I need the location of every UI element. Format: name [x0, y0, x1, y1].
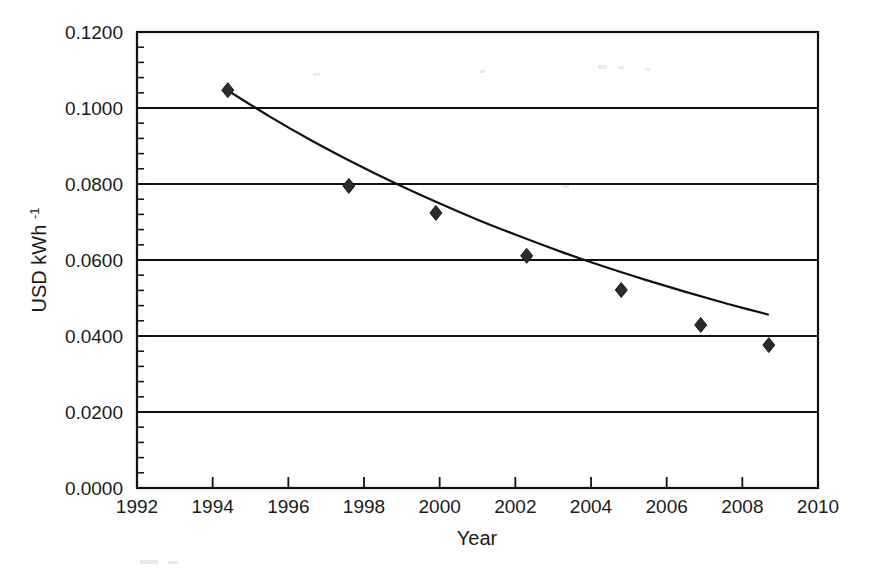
x-tick-label: 2002 [494, 496, 536, 517]
x-axis-title-label: Year [457, 527, 498, 549]
y-tick-label: 0.0000 [65, 478, 123, 499]
y-tick-label: 0.1200 [65, 22, 123, 43]
y-axis-title-label: USD kWh -1 [27, 208, 50, 313]
y-axis-title: USD kWh -1 [27, 208, 50, 313]
x-tick-label: 2004 [570, 496, 613, 517]
x-tick-label: 2006 [646, 496, 688, 517]
x-tick-label: 1998 [343, 496, 385, 517]
y-tick-label: 0.0400 [65, 326, 123, 347]
y-tick-label: 0.0800 [65, 174, 123, 195]
x-tick-label: 2010 [797, 496, 839, 517]
x-tick-label: 1992 [116, 496, 158, 517]
y-tick-label: 0.1000 [65, 98, 123, 119]
x-tick-label: 2000 [419, 496, 461, 517]
figure-container: 0.00000.02000.04000.06000.08000.10000.12… [0, 0, 874, 573]
x-tick-label: 1996 [267, 496, 309, 517]
x-axis-title: Year [457, 527, 498, 549]
y-tick-label: 0.0200 [65, 402, 123, 423]
line-chart: 0.00000.02000.04000.06000.08000.10000.12… [0, 0, 874, 573]
x-tick-label: 2008 [721, 496, 763, 517]
y-tick-label: 0.0600 [65, 250, 123, 271]
x-tick-label: 1994 [192, 496, 235, 517]
